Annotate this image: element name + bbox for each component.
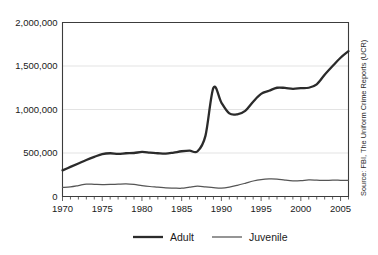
y-axis-tick-label: 1,500,000 (15, 60, 57, 71)
y-axis-tick-label: 2,000,000 (15, 17, 57, 28)
x-axis-tick-label: 1970 (52, 203, 73, 214)
x-axis-tick-label: 2005 (330, 203, 351, 214)
x-axis-tick-label: 1975 (92, 203, 113, 214)
legend-label-adult: Adult (170, 231, 194, 243)
legend-label-juvenile: Juvenile (249, 231, 288, 243)
x-axis-tick-label: 1995 (251, 203, 272, 214)
source-note-text: Source: FBI, The Uniform Crime Reports (… (359, 40, 368, 196)
x-axis-minor-ticks (63, 197, 349, 202)
y-axis-tick-labels: 0500,0001,000,0001,500,0002,000,000 (15, 17, 57, 202)
y-axis-tick-label: 1,000,000 (15, 104, 57, 115)
source-note: Source: FBI, The Uniform Crime Reports (… (359, 40, 368, 196)
y-axis-tick-label: 500,000 (23, 147, 57, 158)
gridlines-group (63, 66, 349, 153)
x-axis-tick-label: 1980 (131, 203, 152, 214)
legend: AdultJuvenile (133, 231, 288, 243)
series-line-juvenile (63, 179, 349, 188)
x-axis-tick-labels: 19701975198019851990199520002005 (52, 203, 351, 214)
series-line-adult (63, 51, 349, 170)
chart-svg: 0500,0001,000,0001,500,0002,000,000 1970… (0, 0, 378, 255)
chart-container: 0500,0001,000,0001,500,0002,000,000 1970… (0, 0, 378, 255)
x-axis-tick-label: 2000 (290, 203, 311, 214)
x-axis-tick-label: 1990 (211, 203, 232, 214)
y-axis-tick-label: 0 (52, 191, 57, 202)
line-chart: 0500,0001,000,0001,500,0002,000,000 1970… (0, 0, 378, 255)
x-axis-tick-label: 1985 (171, 203, 192, 214)
